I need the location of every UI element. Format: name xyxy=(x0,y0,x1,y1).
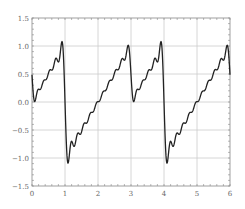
x-tick-label: 6 xyxy=(228,190,233,198)
y-tick-label: −1.0 xyxy=(12,155,29,163)
y-tick-label: 0.5 xyxy=(18,71,29,79)
y-tick-label: 1.0 xyxy=(18,43,29,51)
y-tick-label: −0.5 xyxy=(12,127,29,135)
x-axis-tick-labels: 0123456 xyxy=(30,190,233,198)
x-tick-label: 5 xyxy=(195,190,199,198)
x-tick-label: 4 xyxy=(162,190,167,198)
x-tick-label: 0 xyxy=(30,190,34,198)
y-axis-tick-labels: −1.5−1.0−0.50.00.51.01.5 xyxy=(12,15,29,191)
x-tick-label: 1 xyxy=(63,190,67,198)
y-tick-label: 0.0 xyxy=(18,99,29,107)
y-tick-label: −1.5 xyxy=(12,183,29,191)
x-tick-label: 3 xyxy=(129,190,133,198)
y-tick-label: 1.5 xyxy=(18,15,29,23)
x-tick-label: 2 xyxy=(96,190,100,198)
line-chart: 0123456 −1.5−1.0−0.50.00.51.01.5 xyxy=(0,0,245,209)
